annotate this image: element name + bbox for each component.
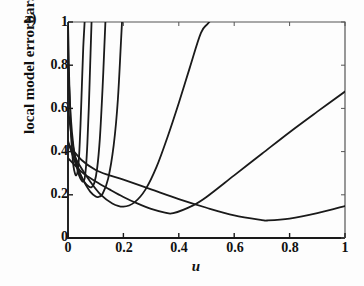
curve-7 xyxy=(68,144,345,221)
plot-area xyxy=(0,0,364,286)
axis-ticks xyxy=(68,22,345,238)
curve-6 xyxy=(68,92,345,214)
axes-frame xyxy=(68,22,345,238)
data-curves xyxy=(65,0,345,221)
figure-panel: a) local model errorbars u 1 0.8 0.6 0.4… xyxy=(0,0,364,286)
